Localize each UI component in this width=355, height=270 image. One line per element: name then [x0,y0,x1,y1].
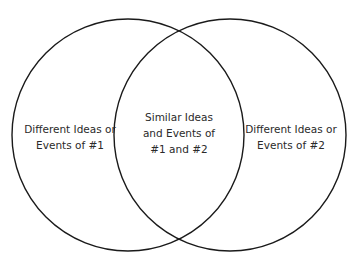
region-label-set-2-only: Different Ideas or Events of #2 [241,121,341,153]
label-line: and Events of [129,125,229,141]
label-line: #1 and #2 [129,141,229,157]
label-line: Different Ideas or [20,121,120,137]
label-line: Events of #1 [20,137,120,153]
label-line: Events of #2 [241,137,341,153]
label-line: Similar Ideas [129,109,229,125]
region-label-set-1-only: Different Ideas or Events of #1 [20,121,120,153]
region-label-intersection: Similar Ideas and Events of #1 and #2 [129,109,229,157]
label-line: Different Ideas or [241,121,341,137]
